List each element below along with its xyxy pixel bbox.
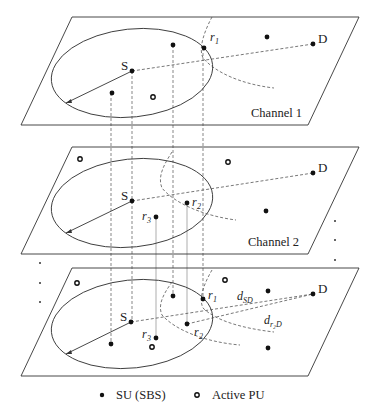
su-node [109, 342, 114, 347]
ellipsis-dot [334, 220, 336, 222]
plane-outline [21, 17, 359, 125]
label-r2-sub: 2 [197, 202, 201, 211]
plane-combined: S D r 1 r 2 r 3 d SD d r₂D [21, 268, 359, 376]
ellipsis-dot [39, 282, 41, 284]
label-s: S [121, 188, 128, 203]
label-d: D [318, 281, 327, 296]
su-node [171, 294, 176, 299]
active-pu-node [223, 278, 227, 282]
plane-channel-1: S D r 1 Channel 1 [21, 17, 359, 125]
label-r3-sub: 3 [146, 216, 151, 225]
relay-r2-node [185, 322, 190, 327]
label-r3-sub: 3 [146, 334, 151, 343]
boundary-curve-r1 [201, 17, 274, 88]
relay-r1-node [202, 46, 207, 51]
destination-node [311, 171, 316, 176]
channel-1-label: Channel 1 [251, 106, 302, 120]
channel-2-label: Channel 2 [248, 235, 299, 249]
continuation-dots [39, 220, 336, 303]
ellipsis-dot [39, 301, 41, 303]
source-node [130, 69, 135, 74]
radius-line [66, 322, 131, 354]
su-node [266, 346, 271, 351]
destination-node [311, 292, 316, 297]
source-node [129, 320, 134, 325]
label-d: D [318, 31, 327, 46]
legend-su-icon [100, 393, 104, 397]
cognitive-relay-diagram: S D r 1 Channel 1 S D r 2 r 3 Channel 2 [0, 0, 374, 416]
ellipsis-dot [334, 239, 336, 241]
legend: SU (SBS) Active PU [100, 388, 265, 402]
relay-r3-node [154, 336, 159, 341]
legend-su-label: SU (SBS) [116, 388, 166, 402]
link-s-d [132, 44, 313, 71]
label-s: S [120, 309, 127, 324]
active-pu-node [151, 95, 155, 99]
label-d: D [318, 160, 327, 175]
active-pu-node [75, 281, 79, 285]
legend-pu-icon [195, 393, 199, 397]
su-node [171, 43, 176, 48]
legend-pu-label: Active PU [212, 388, 264, 402]
source-node [130, 199, 135, 204]
radius-line [66, 71, 132, 103]
label-r2-sub: 2 [199, 332, 203, 341]
label-r1-sub: 1 [215, 37, 219, 46]
ellipsis-dot [334, 259, 336, 261]
su-node [266, 289, 271, 294]
radius-line [66, 201, 132, 233]
plane-outline [21, 268, 359, 376]
relay-r2-node [185, 201, 190, 206]
label-s: S [121, 58, 128, 73]
relay-r1-node [201, 297, 206, 302]
label-d-r2d-sub: r₂D [270, 320, 282, 329]
link-s-d [132, 173, 313, 201]
ellipsis-dot [39, 262, 41, 264]
su-node [264, 209, 269, 214]
arrow-head-icon [66, 229, 72, 233]
su-node [265, 35, 270, 40]
arrow-head-icon [66, 350, 72, 354]
destination-node [311, 42, 316, 47]
label-r1-sub: 1 [213, 295, 217, 304]
plane-outline [21, 147, 359, 254]
relay-r3-node [154, 215, 159, 220]
active-pu-node [78, 157, 82, 161]
label-d-sd-sub: SD [243, 296, 253, 305]
active-pu-node [150, 345, 154, 349]
plane-channel-2: S D r 2 r 3 Channel 2 [21, 147, 359, 255]
link-s-d [131, 294, 313, 322]
active-pu-node [226, 160, 230, 164]
su-node [110, 91, 115, 96]
arrow-head-icon [66, 99, 72, 103]
